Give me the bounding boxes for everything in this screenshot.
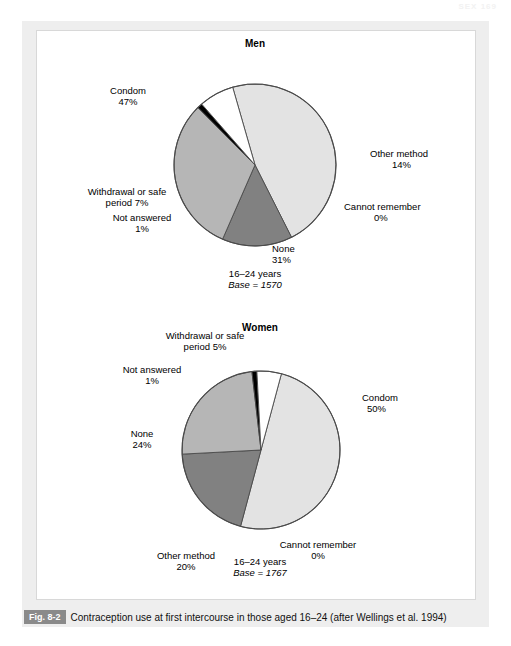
label-text: Condom — [110, 85, 146, 96]
base-text: Base = 1570 — [195, 279, 315, 290]
label-text: Withdrawal or safe — [88, 186, 167, 197]
base-label-men: 16–24 years Base = 1570 — [195, 268, 315, 290]
label-text: Withdrawal or safe — [166, 330, 245, 341]
base-text: Base = 1767 — [200, 567, 320, 578]
label-pct: 1% — [96, 223, 188, 234]
label-women-withdrawal: Withdrawal or safe period 5% — [146, 330, 264, 352]
label-men-cannot-remember: Cannot remember 0% — [344, 201, 474, 223]
label-men-condom: Condom 47% — [88, 85, 168, 107]
label-men-withdrawal: Withdrawal or safe period 7% — [68, 186, 186, 208]
label-pct: 47% — [88, 96, 168, 107]
label-pct: period 5% — [146, 341, 264, 352]
label-pct: 50% — [367, 403, 442, 414]
label-pct: 31% — [272, 254, 332, 265]
base-label-women: 16–24 years Base = 1767 — [200, 556, 320, 578]
label-women-not-answered: Not answered 1% — [106, 364, 198, 386]
age-group-text: 16–24 years — [229, 268, 281, 279]
running-head: SEX 169 — [458, 2, 497, 11]
label-women-condom: Condom 50% — [362, 392, 442, 414]
label-text: Condom — [362, 392, 398, 403]
figure-caption: Fig. 8-2 Contraception use at first inte… — [22, 607, 489, 627]
label-pct: 1% — [106, 375, 198, 386]
figure-page: SEX 169 Men Condom 47% Other method 14% … — [0, 0, 511, 646]
label-pct: period 7% — [68, 197, 186, 208]
chart-title-men: Men — [205, 38, 305, 49]
figure-caption-text: Contraception use at first intercourse i… — [71, 612, 447, 623]
label-text: Other method — [370, 148, 428, 159]
age-group-text: 16–24 years — [234, 556, 286, 567]
label-text: Not answered — [113, 212, 172, 223]
label-text: Not answered — [123, 364, 182, 375]
label-pct: 24% — [114, 439, 170, 450]
figure-plate — [36, 30, 476, 600]
label-men-other-method: Other method 14% — [370, 148, 480, 170]
label-text: Cannot remember — [344, 201, 421, 212]
label-text: None — [131, 428, 154, 439]
label-men-none: None 31% — [272, 243, 332, 265]
label-men-not-answered: Not answered 1% — [96, 212, 188, 234]
label-women-none: None 24% — [114, 428, 170, 450]
label-pct: 0% — [374, 212, 474, 223]
figure-number-badge: Fig. 8-2 — [24, 610, 66, 624]
label-text: Cannot remember — [280, 539, 357, 550]
label-text: None — [272, 243, 295, 254]
label-pct: 14% — [392, 159, 480, 170]
